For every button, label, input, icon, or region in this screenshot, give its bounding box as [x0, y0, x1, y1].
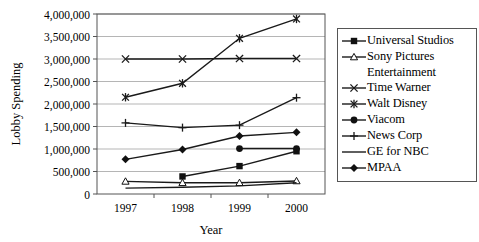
- x-axis-title: Year: [199, 223, 223, 237]
- y-tick-label: 3,000,000: [44, 54, 90, 67]
- y-tick-label: 0: [84, 189, 90, 201]
- legend-marker-none: [341, 144, 367, 159]
- legend-marker-filled-square: [341, 33, 367, 48]
- legend-item-label: News Corp: [367, 128, 422, 143]
- x-tick-label: 1999: [228, 202, 251, 214]
- data-point-viacom: [236, 145, 243, 152]
- data-point-legend: [350, 164, 358, 172]
- legend-item-label: GE for NBC: [367, 144, 429, 159]
- legend-item[interactable]: Universal Studios: [341, 33, 473, 49]
- legend-item[interactable]: Viacom: [341, 112, 473, 128]
- y-tick-label: 2,500,000: [44, 76, 90, 89]
- data-point-legend: [351, 117, 358, 124]
- legend-marker-filled-circle: [341, 112, 367, 127]
- series-news-corp: [122, 94, 301, 132]
- legend-marker-asterisk: [341, 96, 367, 111]
- legend-item[interactable]: MPAA: [341, 160, 473, 176]
- x-axis: 1997199819992000: [114, 194, 308, 214]
- y-tick-label: 4,000,000: [44, 9, 90, 22]
- chart-legend: Universal Studios Sony Pictures Entertai…: [337, 28, 477, 182]
- legend-item-label-continued: Entertainment: [367, 65, 473, 80]
- x-tick-label: 1998: [171, 202, 194, 214]
- legend-item[interactable]: Sony Pictures: [341, 49, 473, 65]
- data-point-legend: [351, 38, 357, 44]
- data-point-mpaa: [179, 145, 187, 153]
- legend-marker-plus: [341, 128, 367, 143]
- x-tick-label: 2000: [285, 202, 308, 214]
- legend-marker-filled-diamond: [341, 160, 367, 175]
- legend-item[interactable]: Walt Disney: [341, 96, 473, 112]
- data-point-mpaa: [122, 155, 130, 163]
- series-viacom: [236, 145, 300, 152]
- x-tick-label: 1997: [114, 202, 137, 214]
- series-line: [126, 98, 297, 128]
- series-universal-studios: [179, 148, 299, 180]
- legend-item-label: Walt Disney: [367, 96, 427, 111]
- series-line: [126, 132, 297, 159]
- data-point-mpaa: [293, 128, 301, 136]
- y-tick-label: 2,000,000: [44, 99, 90, 112]
- chart-figure: 0500,0001,000,0001,500,0002,000,0002,500…: [0, 0, 479, 242]
- legend-item-label: Sony Pictures: [367, 49, 434, 64]
- legend-marker-open-triangle: [341, 49, 367, 64]
- legend-item[interactable]: News Corp: [341, 128, 473, 144]
- legend-item-label: Universal Studios: [367, 33, 454, 48]
- legend-item[interactable]: Time Warner: [341, 80, 473, 96]
- y-tick-label: 1,000,000: [44, 144, 90, 157]
- series-mpaa: [122, 128, 301, 163]
- legend-item[interactable]: GE for NBC: [341, 144, 473, 160]
- data-point-universal-studios: [236, 163, 242, 169]
- data-point-viacom: [293, 145, 300, 152]
- legend-marker-cross-x: [341, 80, 367, 95]
- data-point-mpaa: [236, 132, 244, 140]
- y-tick-label: 500,000: [53, 166, 91, 179]
- legend-item-label: Time Warner: [367, 80, 431, 95]
- series-line: [126, 183, 297, 188]
- y-tick-label: 3,500,000: [44, 31, 90, 44]
- series-ge-for-nbc: [126, 183, 297, 188]
- series-line: [126, 181, 297, 183]
- legend-item-label: Viacom: [367, 112, 405, 127]
- legend-item-label: MPAA: [367, 160, 401, 175]
- y-tick-label: 1,500,000: [44, 121, 90, 134]
- y-axis-title: Lobby Spending: [9, 62, 23, 146]
